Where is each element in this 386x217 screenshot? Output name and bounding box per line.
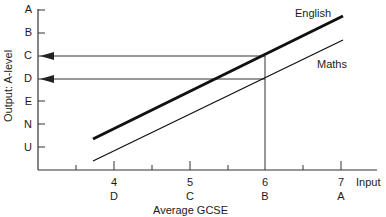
x-grade-d: D [104, 190, 124, 202]
y-tick-e: E [18, 95, 32, 107]
series-maths [93, 40, 343, 161]
series-label-english: English [295, 7, 331, 19]
x-axis-end-label: Input [356, 176, 380, 188]
arrowhead-d-icon [40, 75, 54, 83]
arrowhead-c-icon [40, 52, 54, 60]
y-tick-b: B [18, 26, 32, 38]
y-tick-d: D [18, 72, 32, 84]
x-grade-b: B [255, 190, 275, 202]
x-grade-c: C [180, 190, 200, 202]
x-tick-4: 4 [104, 176, 124, 188]
y-tick-c: C [18, 49, 32, 61]
x-grade-a: A [331, 190, 351, 202]
x-tick-5: 5 [180, 176, 200, 188]
y-tick-u: U [18, 141, 32, 153]
y-tick-n: N [18, 118, 32, 130]
x-ticks [76, 161, 341, 170]
series-english [93, 16, 343, 139]
series-label-maths: Maths [317, 58, 347, 70]
x-tick-7: 7 [331, 176, 351, 188]
y-axis-title: Output: A-level [2, 50, 14, 122]
y-tick-a: A [18, 3, 32, 15]
x-axis-title: Average GCSE [153, 204, 228, 216]
x-tick-6: 6 [255, 176, 275, 188]
